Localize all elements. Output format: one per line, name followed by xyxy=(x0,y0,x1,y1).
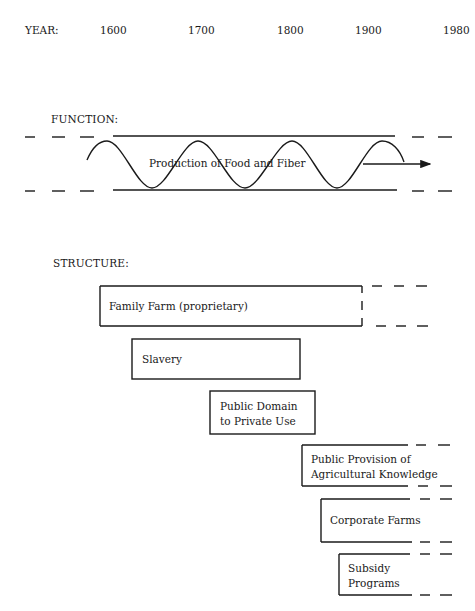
structure-header: STRUCTURE: xyxy=(53,257,129,269)
public-provision-line-1: Public Provision of xyxy=(311,452,438,467)
subsidy-programs-label: Subsidy Programs xyxy=(348,561,400,591)
function-header: FUNCTION: xyxy=(51,113,118,125)
family-farm-label: Family Farm (proprietary) xyxy=(109,299,248,314)
slavery-text: Slavery xyxy=(142,353,182,365)
public-provision-label: Public Provision of Agricultural Knowled… xyxy=(311,452,438,482)
corporate-farms-label: Corporate Farms xyxy=(330,513,421,528)
slavery-label: Slavery xyxy=(142,352,182,367)
public-domain-label: Public Domain to Private Use xyxy=(220,399,298,429)
function-band-label: Production of Food and Fiber xyxy=(149,157,305,169)
public-domain-line-1: Public Domain xyxy=(220,399,298,414)
public-domain-line-2: to Private Use xyxy=(220,414,298,429)
public-provision-line-2: Agricultural Knowledge xyxy=(311,467,438,482)
subsidy-line-2: Programs xyxy=(348,576,400,591)
family-farm-text: Family Farm (proprietary) xyxy=(109,300,248,312)
subsidy-line-1: Subsidy xyxy=(348,561,400,576)
corporate-farms-text: Corporate Farms xyxy=(330,514,421,526)
